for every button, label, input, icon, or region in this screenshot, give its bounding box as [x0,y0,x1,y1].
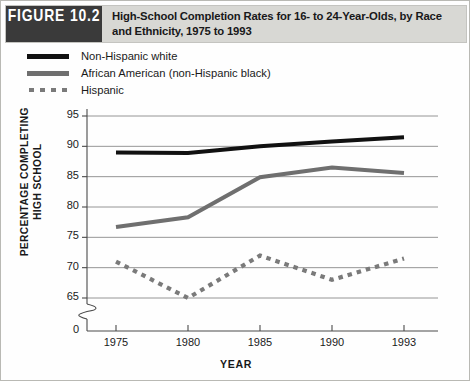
figure-container: FIGURE 10.2 High-School Completion Rates… [0,0,470,381]
y-axis-break-icon [79,304,96,319]
chart-plot [1,1,470,381]
data-series-line [116,256,404,298]
data-series-line [116,137,404,153]
